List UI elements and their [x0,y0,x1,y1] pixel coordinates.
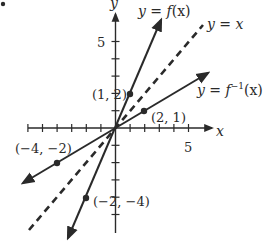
point-1-2 [127,91,133,97]
inverse-function-graph: x 5 y 5 (1, 2) (2, 1) (−4, −2) (−2, −4) [0,0,266,244]
corner-dot [1,2,5,6]
point-label-m4-m2: (−4, −2) [15,141,72,156]
point-2-1 [141,108,147,114]
f-inverse-equation-label: y = f−1(x) [196,81,263,98]
f-equation-label: y = f(x) [137,3,191,19]
identity-equation-label: y = x [206,16,244,32]
point-m2-m4 [83,195,89,201]
y-axis-label: y [109,0,119,11]
point-m4-m2 [54,160,60,166]
point-label-2-1: (2, 1) [151,110,186,125]
x-tick-label-5: 5 [184,140,192,155]
x-axis-label: x [216,123,224,139]
point-label-1-2: (1, 2) [92,87,127,102]
y-tick-label-5: 5 [97,35,105,50]
point-label-m2-m4: (−2, −4) [93,194,150,209]
